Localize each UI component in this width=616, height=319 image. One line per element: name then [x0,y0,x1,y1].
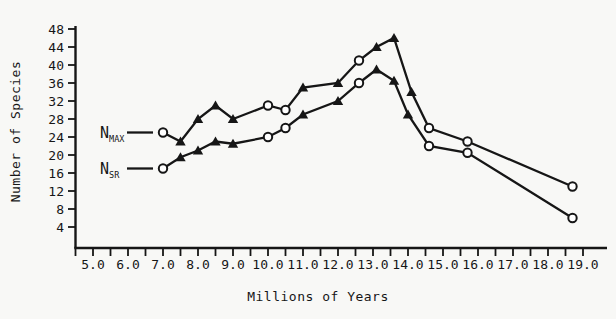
x-tick-label: 12.0 [322,257,353,272]
circle-marker [463,137,471,145]
circle-marker [568,214,576,222]
circle-marker [281,106,289,114]
circle-marker [159,128,167,136]
series-line [163,38,573,187]
triangle-marker [193,146,203,155]
x-tick-label: 17.0 [497,257,528,272]
circle-marker [264,101,272,109]
x-tick-label: 8.0 [186,257,209,272]
y-tick-label: 36 [48,76,64,91]
circle-marker [425,142,433,150]
y-tick-label: 48 [48,22,64,37]
y-tick-label: 24 [48,130,64,145]
x-tick-label: 13.0 [357,257,388,272]
y-tick-label: 32 [48,94,64,109]
triangle-marker [371,42,381,51]
circle-marker [463,149,471,157]
y-axis-title: Number of Species [8,32,23,232]
y-tick-label: 4 [56,220,64,235]
x-tick-label: 18.0 [532,257,563,272]
legend-label: NSR [100,160,120,181]
x-tick-label: 6.0 [116,257,139,272]
y-tick-label: 12 [48,184,64,199]
triangle-marker [371,65,381,74]
x-tick-label: 5.0 [81,257,104,272]
legend-n_sr: NSR [100,160,153,181]
y-tick-label: 16 [48,166,64,181]
y-axis: 4812162024283236404448 [48,22,75,249]
y-tick-label: 8 [56,202,64,217]
triangle-marker [389,33,399,42]
x-tick-label: 7.0 [151,257,174,272]
triangle-marker [406,87,416,96]
circle-marker [281,124,289,132]
x-tick-label: 14.0 [392,257,423,272]
y-tick-label: 44 [48,40,64,55]
triangle-marker [403,110,413,119]
x-tick-label: 11.0 [287,257,318,272]
circle-marker [355,56,363,64]
triangle-marker [210,101,220,110]
circle-marker [159,164,167,172]
series-n_max [159,33,577,191]
x-axis: 5.06.07.08.09.010.011.012.013.014.015.01… [74,248,607,272]
legend-n_max: NMAX [100,124,153,145]
circle-marker [264,133,272,141]
circle-marker [355,79,363,87]
circle-marker [568,182,576,190]
y-tick-label: 20 [48,148,64,163]
x-axis-title: Millions of Years [218,289,418,304]
circle-marker [425,124,433,132]
y-tick-label: 28 [48,112,64,127]
x-tick-label: 10.0 [252,257,283,272]
species-diversity-figure: 48121620242832364044485.06.07.08.09.010.… [0,0,616,319]
chart-canvas: 48121620242832364044485.06.07.08.09.010.… [0,0,616,319]
x-tick-label: 15.0 [427,257,458,272]
x-tick-label: 16.0 [462,257,493,272]
series-n_sr [159,65,577,223]
x-tick-label: 9.0 [221,257,244,272]
y-tick-label: 40 [48,58,64,73]
legend-label: NMAX [100,124,125,145]
series-line [163,70,573,219]
x-tick-label: 19.0 [567,257,598,272]
